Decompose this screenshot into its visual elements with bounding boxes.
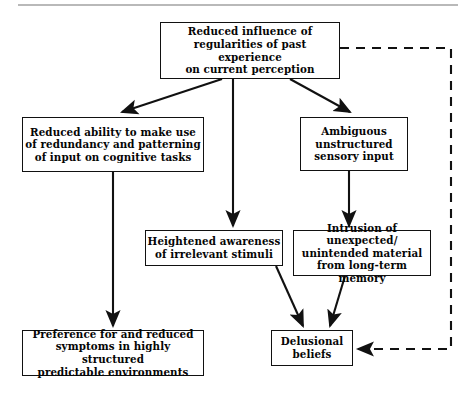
edge-root-to-ambiguous [290,79,350,112]
node-heightened-awareness[interactable]: Heightened awareness of irrelevant stimu… [145,230,283,266]
node-intrusion-memory[interactable]: Intrusion of unexpected/ unintended mate… [293,230,431,276]
node-preference-structured[interactable]: Preference for and reduced symptoms in h… [22,330,204,376]
node-intrusion-memory-label: Intrusion of unexpected/ unintended mate… [294,222,430,285]
node-delusional-beliefs-label: Delusional beliefs [281,335,344,360]
edge-root-to-delusional-feedback [340,48,451,349]
node-reduced-ability[interactable]: Reduced ability to make use of redundanc… [22,117,204,172]
edge-root-to-reduced-ability [122,79,222,112]
node-reduced-influence[interactable]: Reduced influence of regularities of pas… [160,22,340,79]
node-reduced-ability-label: Reduced ability to make use of redundanc… [25,126,200,164]
node-preference-structured-label: Preference for and reduced symptoms in h… [23,328,203,378]
flowchart-diagram: Reduced influence of regularities of pas… [0,0,471,394]
node-delusional-beliefs[interactable]: Delusional beliefs [271,330,353,366]
node-ambiguous-input[interactable]: Ambiguous unstructured sensory input [300,117,408,171]
node-heightened-awareness-label: Heightened awareness of irrelevant stimu… [148,235,281,260]
node-reduced-influence-label: Reduced influence of regularities of pas… [161,25,339,75]
node-ambiguous-input-label: Ambiguous unstructured sensory input [314,125,394,163]
